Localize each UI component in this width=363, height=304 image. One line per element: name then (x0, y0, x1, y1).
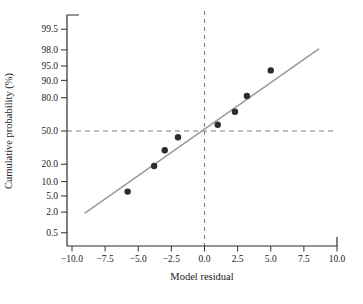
x-tick-label: 0.0 (199, 254, 211, 264)
y-tick-label: 10.0 (41, 177, 58, 187)
x-tick-label: 7.5 (298, 254, 310, 264)
y-tick-label: 99.5 (41, 24, 58, 34)
data-point (215, 122, 221, 128)
data-point (124, 188, 130, 194)
chart-canvas: 99.598.095.090.080.050.020.010.05.02.00.… (0, 0, 363, 304)
normal-probability-plot: 99.598.095.090.080.050.020.010.05.02.00.… (0, 0, 363, 304)
y-tick-label: 98.0 (41, 45, 58, 55)
x-tick-label: −7.5 (97, 254, 114, 264)
data-point (175, 134, 181, 140)
data-point (151, 163, 157, 169)
data-point (232, 108, 238, 114)
x-tick-label: −5.0 (130, 254, 147, 264)
y-tick-label: 0.5 (46, 228, 58, 238)
axis-ticks: 99.598.095.090.080.050.020.010.05.02.00.… (41, 24, 345, 264)
y-tick-label: 80.0 (41, 93, 58, 103)
y-tick-label: 50.0 (41, 126, 58, 136)
x-tick-label: −10.0 (61, 254, 83, 264)
data-point (244, 93, 250, 99)
x-tick-label: 2.5 (232, 254, 244, 264)
y-tick-label: 2.0 (46, 207, 58, 217)
x-tick-label: −2.5 (163, 254, 180, 264)
y-axis-title: Cumulative probability (%) (3, 72, 15, 189)
x-tick-label: 10.0 (329, 254, 346, 264)
y-tick-label: 20.0 (41, 159, 58, 169)
data-point (162, 147, 168, 153)
y-tick-label: 5.0 (46, 191, 58, 201)
x-tick-label: 5.0 (265, 254, 277, 264)
y-tick-label: 95.0 (41, 61, 58, 71)
y-tick-label: 90.0 (41, 76, 58, 86)
x-axis-title: Model residual (170, 271, 233, 282)
reference-lines (67, 11, 337, 246)
data-point (268, 67, 274, 73)
